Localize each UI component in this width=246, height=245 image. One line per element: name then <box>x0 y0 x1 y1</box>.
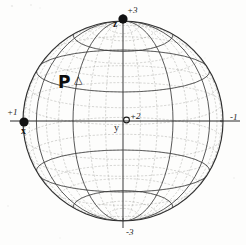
axis-label-top-number: +3 <box>127 6 138 15</box>
axis-label-bottom-number: -3 <box>126 228 134 237</box>
axis-label-right-number: -1 <box>230 113 238 122</box>
center-letter-y: y <box>114 122 119 133</box>
spherical-projection-figure: +3 z +1 x y +2 -1 -3 P △ <box>0 0 246 245</box>
pole-point-label-p: P <box>58 74 70 91</box>
axis-label-center-letter: y <box>114 118 119 134</box>
axis-label-top-letter: z <box>113 20 117 30</box>
axis-label-center-number: +2 <box>130 112 141 121</box>
point-marker-z-plus3 <box>118 14 127 23</box>
triangle-icon: △ <box>74 74 82 85</box>
axis-label-left-letter: x <box>21 127 26 137</box>
sphere-graticule-drawing <box>0 0 246 245</box>
axis-label-left-number: +1 <box>7 108 18 117</box>
point-marker-y-plus2 <box>124 117 130 123</box>
